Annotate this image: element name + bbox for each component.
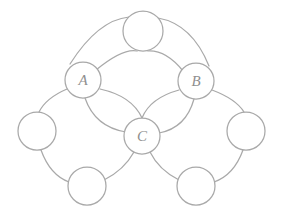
- edge-b-c-outer: [159, 99, 194, 133]
- node-c-label: C: [137, 128, 148, 144]
- edge-top-b-outer: [158, 18, 209, 66]
- edge-a-top-outer: [70, 17, 129, 64]
- edge-a-left: [39, 89, 67, 112]
- node-left[interactable]: [18, 112, 56, 150]
- edge-bottomleft-c: [104, 152, 134, 180]
- edge-a-c-outer: [85, 98, 126, 132]
- edge-bottomright-c: [150, 152, 179, 180]
- edge-right-bottomright: [214, 150, 243, 182]
- node-top[interactable]: [123, 11, 163, 51]
- edge-top-b-inner: [148, 51, 183, 71]
- edge-left-bottomleft: [41, 150, 69, 182]
- node-c[interactable]: C: [124, 118, 160, 154]
- node-top-circle[interactable]: [123, 11, 163, 51]
- node-b-label: B: [191, 73, 200, 89]
- node-b[interactable]: B: [178, 63, 214, 99]
- node-right[interactable]: [227, 112, 265, 150]
- edge-b-c-inner: [142, 90, 179, 118]
- node-a[interactable]: A: [65, 62, 101, 98]
- graph-canvas: A B C: [0, 0, 284, 218]
- node-right-circle[interactable]: [227, 112, 265, 150]
- edge-a-top-inner: [96, 51, 137, 70]
- node-layer: A B C: [18, 11, 265, 205]
- node-bottom-right-circle[interactable]: [177, 167, 215, 205]
- node-left-circle[interactable]: [18, 112, 56, 150]
- graph-diagram: A B C: [0, 0, 284, 218]
- edge-a-c-inner: [100, 89, 142, 118]
- node-bottom-left[interactable]: [68, 167, 106, 205]
- node-bottom-right[interactable]: [177, 167, 215, 205]
- node-a-label: A: [77, 72, 88, 88]
- node-bottom-left-circle[interactable]: [68, 167, 106, 205]
- edge-b-right: [212, 90, 244, 112]
